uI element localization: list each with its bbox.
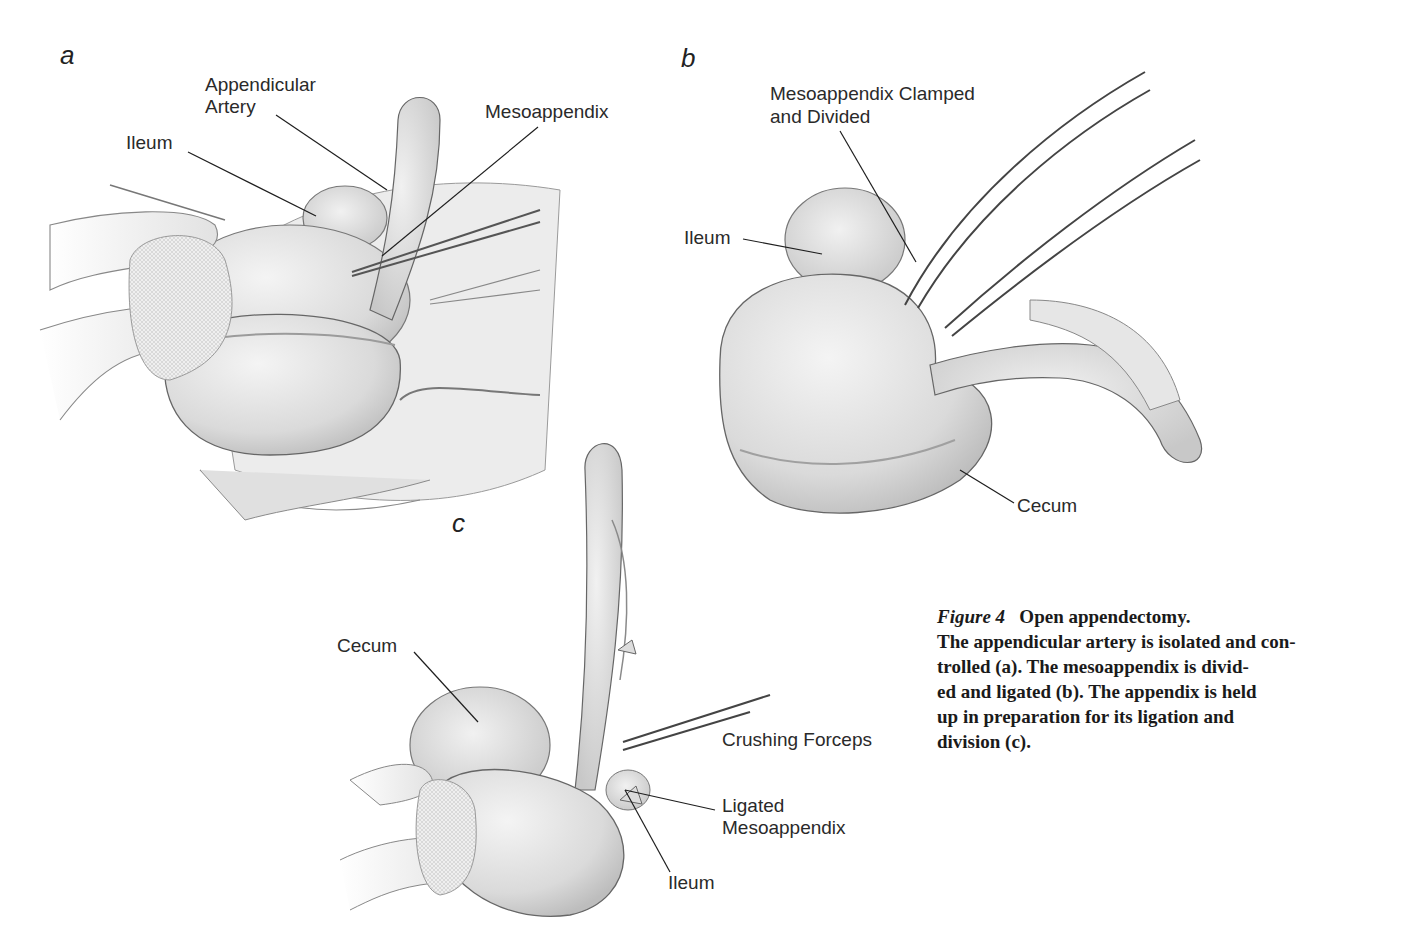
panel-letter-a: a [60,40,74,71]
label-cecum-c: Cecum [337,635,397,657]
label-ileum-a: Ileum [126,132,172,154]
label-mesoappendix-a: Mesoappendix [485,101,609,123]
figure-illustrations [0,0,1415,931]
panel-c-illustration [340,444,770,917]
label-mesoappendix-clamped-line1: Mesoappendix Clamped [770,83,975,105]
label-ileum-c: Ileum [668,872,714,894]
caption-line-3: ed and ligated (b). The appendix is held [937,681,1257,702]
caption-line-2: trolled (a). The mesoappendix is divid- [937,656,1249,677]
caption-title: Open appendectomy. [1019,606,1190,627]
caption-line-1: The appendicular artery is isolated and … [937,631,1296,652]
label-ligated-mesoappendix-line2: Mesoappendix [722,817,846,839]
label-cecum-b: Cecum [1017,495,1077,517]
caption-line-5: division (c). [937,731,1031,752]
label-crushing-forceps: Crushing Forceps [722,729,872,751]
label-ligated-mesoappendix-line1: Ligated [722,795,784,817]
panel-b-illustration [720,72,1202,513]
label-appendicular-artery-line1: Appendicular [205,74,316,96]
label-ileum-b: Ileum [684,227,730,249]
panel-letter-b: b [681,43,695,74]
figure-caption: Figure 4 Open appendectomy. The appendic… [937,604,1357,754]
label-mesoappendix-clamped-line2: and Divided [770,106,870,128]
label-appendicular-artery-line2: Artery [205,96,256,118]
caption-line-4: up in preparation for its ligation and [937,706,1234,727]
figure-number: Figure 4 [937,606,1005,627]
panel-a-illustration [40,98,560,521]
panel-letter-c: c [452,508,465,539]
